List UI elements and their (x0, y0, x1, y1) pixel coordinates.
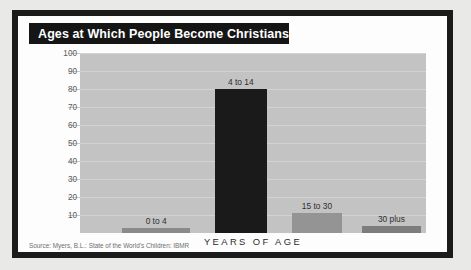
bar-30-plus (362, 226, 421, 233)
y-axis-tick-40: 40 (51, 157, 77, 166)
gridline-90 (80, 71, 426, 72)
y-axis-tick-30: 30 (51, 175, 77, 184)
bar-label-4-to-14: 4 to 14 (228, 77, 254, 87)
y-axis-tick-100: 100 (51, 49, 77, 58)
y-axis-tick-60: 60 (51, 121, 77, 130)
bar-label-0-to-4: 0 to 4 (146, 216, 167, 226)
page-title: Ages at Which People Become Christians (38, 27, 289, 41)
y-axis-tick-80: 80 (51, 85, 77, 94)
bar-label-15-to-30: 15 to 30 (302, 201, 332, 211)
plot-canvas: 0 to 44 to 1415 to 3030 plus (80, 53, 426, 233)
y-axis-tick-20: 20 (51, 193, 77, 202)
chart-panel: Ages at Which People Become Christians28… (18, 16, 447, 252)
chart-title-bar: Ages at Which People Become Christians28 (29, 23, 289, 44)
bar-4-to-14 (215, 89, 267, 233)
y-axis-tick-70: 70 (51, 103, 77, 112)
y-axis-tick-90: 90 (51, 67, 77, 76)
y-axis-tick-50: 50 (51, 139, 77, 148)
title-footnote-marker: 28 (290, 27, 298, 34)
source-note: Source: Myers, B.L.: State of the World'… (29, 242, 189, 249)
bar-0-to-4 (122, 228, 189, 233)
gridline-100 (80, 53, 426, 54)
chart-figure-frame: Ages at Which People Become Christians28… (12, 10, 453, 258)
bar-15-to-30 (292, 213, 342, 233)
bar-label-30-plus: 30 plus (378, 214, 405, 224)
y-axis-tick-10: 10 (51, 211, 77, 220)
plot-area: PERCENT OF POPULATION 0 to 44 to 1415 to… (80, 53, 426, 233)
